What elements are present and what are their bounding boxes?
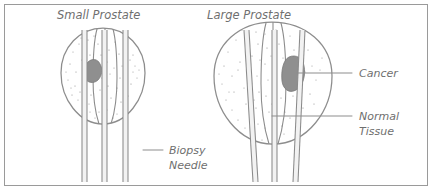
needle-3 (123, 30, 128, 182)
biopsy-needle-label-line2: Needle (169, 159, 208, 172)
small-prostate-title: Small Prostate (57, 8, 140, 22)
cancer-label: Cancer (359, 67, 399, 80)
needle-2 (102, 30, 107, 182)
normal-tissue-label-line2: Tissue (359, 125, 394, 138)
biopsy-needle-callout: Biopsy Needle (143, 144, 208, 172)
needle-5 (272, 30, 277, 182)
normal-tissue-label-line1: Normal (359, 110, 399, 123)
biopsy-needle-label-line1: Biopsy (169, 144, 206, 157)
large-prostate-title: Large Prostate (207, 8, 291, 22)
prostate-biopsy-figure: Small Prostate Large Prostate Cancer Nor… (0, 0, 432, 190)
needle-1 (82, 30, 87, 182)
